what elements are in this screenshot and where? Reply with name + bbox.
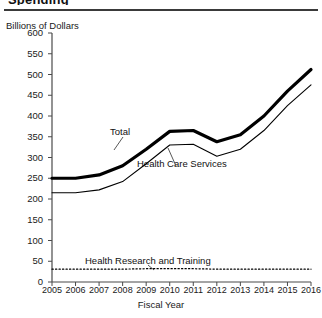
series-paths (52, 70, 311, 270)
annotation-leader-lines (114, 137, 176, 270)
plot-area (0, 0, 322, 318)
series-line-total (52, 70, 311, 179)
axis-lines (52, 33, 311, 282)
chart-figure: Spending Billions of Dollars Fiscal Year… (0, 0, 322, 318)
